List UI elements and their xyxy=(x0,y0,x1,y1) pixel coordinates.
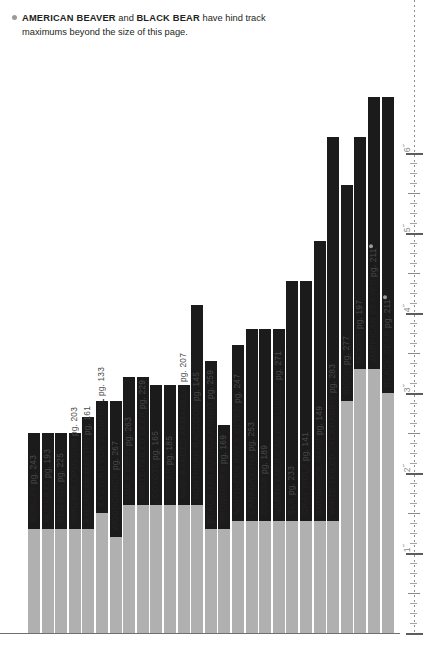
bar-label-eastern-fox-squirrel: EASTERN FOX SQUIRREL pg. 133 xyxy=(95,367,107,507)
ruler-tick-sub xyxy=(410,483,417,484)
bar-label-northern-raccoon: NORTHERN RACCOON pg. 145 xyxy=(190,372,202,499)
ruler-tick-sub xyxy=(410,283,417,284)
species-name: BLACK-TAILED JACKRABBIT xyxy=(205,401,215,523)
bar-label-bobcat: BOBCAT pg. 243 xyxy=(27,455,39,523)
ruler-label-5: 5˝ xyxy=(402,224,412,232)
ruler-tick-sub xyxy=(410,163,417,164)
ruler-tick-sub xyxy=(410,543,417,544)
bar-label-american-marten: AMERICAN MARTEN pg. 161 xyxy=(81,406,93,523)
ruler-tick-inch xyxy=(406,393,423,395)
bar-label-virginia-opossum: VIRGINIA OPOSSUM pg. 203 xyxy=(68,407,80,523)
page-reference: pg. 225 xyxy=(55,453,65,484)
ruler-tick-sub xyxy=(410,493,417,494)
species-name: NINE-BANDED ARMADILLO xyxy=(178,385,188,499)
species-name: VIRGINIA OPOSSUM xyxy=(69,439,79,523)
bar-min-segment xyxy=(28,529,40,633)
bar-moose xyxy=(354,137,366,633)
ruler-tick-sub xyxy=(410,383,417,384)
ruler-tick-sub xyxy=(410,413,417,414)
page-reference: pg. 271 xyxy=(273,351,283,382)
ruler-label-4: 4˝ xyxy=(402,304,412,312)
ruler-tick-sub xyxy=(410,523,417,524)
inch-ruler-axis: 1˝2˝3˝4˝5˝6˝ xyxy=(404,0,436,671)
species-name: WHITE-TAILED DEER xyxy=(137,411,147,499)
species-name: WOODCHUCK xyxy=(110,472,120,531)
ruler-tick-sub xyxy=(410,293,417,294)
page-reference: pg. 203 xyxy=(69,407,79,438)
ruler-tick-sub xyxy=(408,593,420,594)
ruler-tick-inch xyxy=(406,553,423,555)
bar-min-segment xyxy=(191,505,203,633)
ruler-tick-sub xyxy=(410,253,417,254)
ruler-tick-sub xyxy=(410,333,417,334)
bar-label-red-fox: RED FOX pg. 225 xyxy=(54,453,66,523)
species-name: AMERICAN BEAVER xyxy=(368,279,378,363)
ruler-tick-sub xyxy=(410,203,417,204)
page-reference: pg. 207 xyxy=(178,353,188,384)
bar-american-beaver xyxy=(368,97,380,633)
bar-min-segment xyxy=(273,521,285,633)
page-reference: pg. 149 xyxy=(314,406,324,437)
ruler-tick-sub xyxy=(410,503,417,504)
ruler-tick-sub xyxy=(410,343,417,344)
bullet-dot-icon xyxy=(382,295,387,300)
ruler-tick-sub xyxy=(410,573,417,574)
bar-min-segment xyxy=(164,505,176,633)
page-reference: pg. 193 xyxy=(42,449,52,480)
page-reference: pg. 197 xyxy=(354,300,364,331)
bar-label-black-bear: BLACK BEAR pg. 211 xyxy=(381,295,393,387)
ruler-tick-sub xyxy=(410,403,417,404)
page-reference: pg. 283 xyxy=(327,364,337,395)
species-name: ELK xyxy=(286,498,296,515)
bar-label-muskrat: MUSKRAT pg. 193 xyxy=(41,449,53,523)
bar-label-cougar: COUGAR pg. 189 xyxy=(258,445,270,515)
page-reference: pg. 189 xyxy=(259,445,269,476)
ruler-tick-sub xyxy=(410,303,417,304)
bar-label-american-beaver: AMERICAN BEAVER pg. 211 xyxy=(367,244,379,363)
ruler-label-2: 2˝ xyxy=(402,464,412,472)
bar-min-segment xyxy=(354,369,366,633)
bar-min-segment xyxy=(96,513,108,633)
bar-label-white-tailed-jackrabbit: WHITE-TAILED JACKRABBIT pg. 283 xyxy=(326,364,338,515)
page-reference: pg. 141 xyxy=(300,432,310,463)
page-reference: pg. 253 xyxy=(246,422,256,453)
bar-min-segment xyxy=(259,521,271,633)
species-name: AMERICAN MARTEN xyxy=(82,437,92,523)
ruler-tick-sub xyxy=(410,323,417,324)
ruler-label-3: 3˝ xyxy=(402,384,412,392)
bar-label-black-tailed-jackrabbit: BLACK-TAILED JACKRABBIT pg. 259 xyxy=(204,370,216,523)
ruler-tick-sub xyxy=(410,463,417,464)
ruler-tick-sub xyxy=(408,273,420,274)
bar-min-segment xyxy=(110,537,122,633)
ruler-tick-sub xyxy=(410,363,417,364)
page-reference: pg. 229 xyxy=(137,380,147,411)
bar-label-pronghorn: PRONGHORN pg. 169 xyxy=(217,435,229,523)
bar-min-segment xyxy=(178,505,190,633)
bar-label-elk: ELK pg. 233 xyxy=(285,466,297,515)
bar-label-mule-deer: MULE DEER pg. 263 xyxy=(122,417,134,499)
ruler-tick-sub xyxy=(410,443,417,444)
ruler-tick-sub xyxy=(408,353,420,354)
bar-min-segment xyxy=(205,529,217,633)
ruler-label-6: 6˝ xyxy=(402,144,412,152)
bar-label-white-tailed-deer: WHITE-TAILED DEER pg. 229 xyxy=(136,380,148,499)
ruler-tick-inch xyxy=(406,313,423,315)
species-name: COYOTE xyxy=(150,463,160,499)
ruler-tick-sub xyxy=(410,173,417,174)
page-reference: pg. 259 xyxy=(205,370,215,401)
species-name: BOBCAT xyxy=(28,487,38,523)
page-reference: pg. 243 xyxy=(28,455,38,486)
page-reference: pg. 145 xyxy=(191,372,201,403)
species-name: BLACK BEAR xyxy=(382,330,392,387)
bar-bison xyxy=(341,185,353,633)
page-reference: pg. 233 xyxy=(286,466,296,497)
bar-min-segment xyxy=(69,529,81,633)
bar-label-moose: MOOSE pg. 197 xyxy=(353,300,365,363)
ruler-tick-sub xyxy=(410,183,417,184)
chart-page: AMERICAN BEAVER and BLACK BEAR have hind… xyxy=(0,0,436,671)
species-name: NORTHERN RACCOON xyxy=(191,404,201,499)
bar-min-segment xyxy=(42,529,54,633)
bar-coyote xyxy=(150,385,162,633)
bar-min-segment xyxy=(286,521,298,633)
bar-min-segment xyxy=(55,529,67,633)
